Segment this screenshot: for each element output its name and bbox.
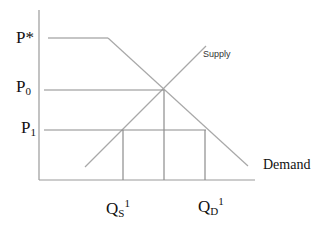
qs1-sup: 1 [124,197,130,209]
qd1-main: Q [198,197,210,216]
p-star-label: P* [16,29,34,46]
p-star-mark: * [25,28,34,47]
supply-label: Supply [203,49,231,59]
qd1-sup: 1 [218,195,224,207]
qs1-label: QS1 [106,198,130,219]
qd1-label: QD1 [198,196,224,217]
supply-curve [85,46,206,167]
demand-label: Demand [263,157,310,173]
qs1-main: Q [106,199,118,218]
p0-label: P0 [16,78,31,97]
p1-sub: 1 [30,126,36,138]
p0-sub: 0 [25,85,31,97]
p1-label: P1 [21,119,36,138]
supply-demand-diagram [0,0,324,228]
